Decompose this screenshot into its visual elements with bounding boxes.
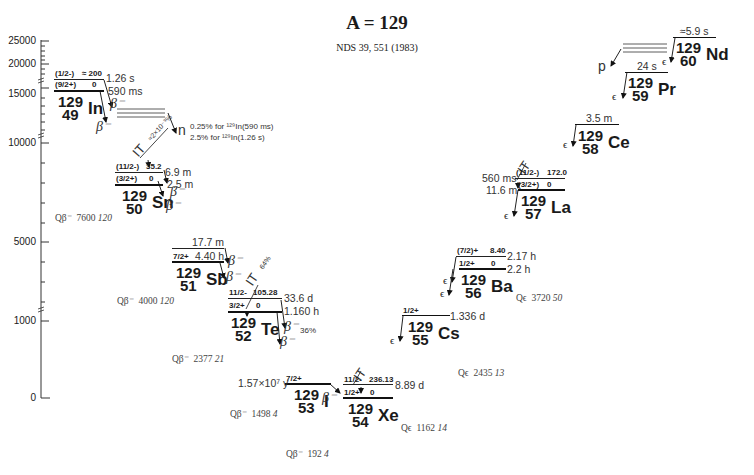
half-life: 24 s <box>637 60 657 72</box>
half-life: 1.26 s <box>106 72 135 84</box>
axis-tick-20000: 20000 <box>2 58 36 69</box>
q-value: Qβ⁻ 7600 120 <box>55 212 112 223</box>
epsilon-label: ϵ <box>563 138 567 150</box>
q-label: Qβ⁻ <box>117 296 134 306</box>
spin-parity: 11/2- <box>229 288 247 297</box>
q-value: Qϵ 1162 14 <box>401 423 447 433</box>
spin-parity: (3/2+) <box>518 180 539 189</box>
level-energy: 35.2 <box>146 162 162 171</box>
spin-parity: (7/2)+ <box>457 246 478 255</box>
beta-minus-label: β⁻ <box>96 118 110 135</box>
element-symbol: In <box>88 100 103 117</box>
ground-state-line <box>459 268 506 270</box>
element-symbol: Pr <box>658 81 676 98</box>
level-energy: ≈ 200 <box>82 69 102 78</box>
q-uncertainty: 4 <box>273 409 278 419</box>
q-label: Qβ⁻ <box>172 354 189 364</box>
level-energy: 172.0 <box>547 168 567 177</box>
spin-parity: (9/2+) <box>55 80 76 89</box>
q-label: Qϵ <box>516 293 527 303</box>
beta-minus-label: β⁻ <box>228 252 242 269</box>
axis-tick-1000: 1000 <box>2 315 36 326</box>
ground-state-line <box>402 315 450 316</box>
beta-minus-label: β⁻ <box>226 268 240 285</box>
q-uncertainty: 120 <box>98 213 112 223</box>
epsilon-label: ϵ <box>504 209 508 221</box>
level-line <box>228 298 282 299</box>
element-symbol: Ce <box>608 134 630 151</box>
q-number: 4000 <box>138 296 157 306</box>
q-value: Qϵ 3720 50 <box>516 293 562 303</box>
element-symbol: Sb <box>206 271 228 288</box>
axis-tick-10000: 10000 <box>2 137 36 148</box>
beta-minus-label: β⁻ <box>166 197 180 214</box>
spin-parity: 3/2+ <box>229 301 245 310</box>
half-life: 3.5 m <box>586 112 612 124</box>
half-life: 1.336 d <box>450 310 485 322</box>
half-life: 6.9 m <box>165 166 191 178</box>
epsilon-label: ϵ <box>390 334 394 346</box>
half-life: 4.40 h <box>195 250 224 262</box>
q-value: Qβ⁻ 1498 4 <box>230 408 278 419</box>
level-energy: 0 <box>92 80 96 89</box>
spin-parity: 7/2+ <box>286 374 302 383</box>
axis-tick-0: 0 <box>2 392 36 403</box>
level-energy: 0 <box>370 388 374 397</box>
level-energy: 0 <box>149 174 153 183</box>
level-line <box>343 384 393 385</box>
level-energy: 0 <box>491 259 495 268</box>
element-symbol: Xe <box>378 407 399 424</box>
level-line <box>515 178 565 179</box>
atomic-number: 58 <box>582 141 599 156</box>
atomic-number: 60 <box>680 53 697 68</box>
level-line <box>172 248 224 249</box>
q-label: Qβ⁻ <box>286 449 303 459</box>
beta-minus-label: β⁻ <box>280 333 294 350</box>
atomic-number: 49 <box>62 107 79 122</box>
epsilon-label: ϵ <box>440 287 444 299</box>
q-number: 2435 <box>473 368 492 378</box>
half-life: 8.89 d <box>395 379 424 391</box>
neutron-branch-note: 0.25% for ¹²⁹In(590 ms) <box>190 122 273 131</box>
level-energy: 105.28 <box>253 288 277 297</box>
epsilon-label: ϵ <box>662 55 666 67</box>
q-uncertainty: 120 <box>160 296 174 306</box>
beta-branch-pct: 36% <box>300 326 316 335</box>
ground-state-line <box>575 124 619 125</box>
neutron-branch-note: 2.5% for ¹²⁹In(1.26 s) <box>190 133 265 142</box>
element-symbol: Cs <box>438 325 460 342</box>
q-value: Qϵ 2435 13 <box>458 368 504 378</box>
neutron-emission-label: n <box>178 122 186 138</box>
axis-tick-15000: 15000 <box>2 88 36 99</box>
atomic-number: 50 <box>126 201 143 216</box>
spin-parity: (3/2+) <box>116 174 137 183</box>
element-symbol: Nd <box>706 46 729 63</box>
element-symbol: La <box>551 199 571 216</box>
atomic-number: 55 <box>412 332 429 347</box>
level-line <box>115 172 163 173</box>
level-energy: 8.40 <box>490 246 506 255</box>
element-symbol: Te <box>261 321 280 338</box>
q-number: 2377 <box>193 354 212 364</box>
atomic-number: 59 <box>632 88 649 103</box>
proton-emission-label: p <box>598 58 606 74</box>
q-uncertainty: 21 <box>215 354 225 364</box>
q-uncertainty: 4 <box>324 449 329 459</box>
ground-state-line <box>54 90 104 92</box>
spin-parity: 1/2+ <box>403 306 419 315</box>
spin-parity: (11/2-) <box>516 168 539 177</box>
beta-minus-label: β⁻ <box>110 95 124 112</box>
ground-state-line <box>518 189 565 191</box>
half-life: 11.6 m <box>486 184 517 196</box>
element-symbol: Ba <box>491 278 513 295</box>
level-line <box>456 256 506 257</box>
q-label: Qϵ <box>401 423 412 433</box>
spin-parity: 7/2+ <box>173 252 189 261</box>
atomic-number: 54 <box>352 414 369 429</box>
q-value: Qβ⁻ 4000 120 <box>117 295 174 306</box>
half-life: 1.57×10⁷ y <box>238 377 288 389</box>
q-value: Qβ⁻ 192 4 <box>286 448 329 459</box>
q-number: 7600 <box>76 213 95 223</box>
spin-parity: 1/2+ <box>459 259 475 268</box>
spin-parity: 1/2+ <box>344 388 360 397</box>
